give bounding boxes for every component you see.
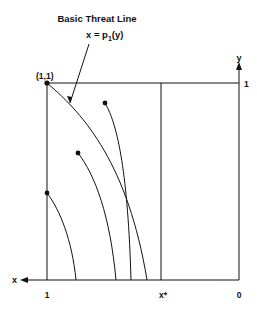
trajectory-curve-lower	[47, 193, 76, 280]
trajectory-curve-upper	[105, 103, 131, 280]
x-tick-star: x*	[159, 290, 168, 300]
basic-threat-line-curve	[47, 83, 147, 280]
threat-line-diagram: Basic Threat Line x = p1(y) (1,1) y 1 x …	[0, 0, 257, 317]
y-tick-one: 1	[244, 79, 249, 89]
x-tick-zero: 0	[237, 290, 242, 300]
corner-label: (1,1)	[36, 71, 54, 81]
trajectory-curve-middle	[78, 153, 116, 280]
trajectory-start-point-lower	[45, 191, 50, 196]
equation-label: x = p1(y)	[86, 29, 123, 42]
x-axis-label: x	[12, 275, 17, 285]
trajectory-start-point-middle	[76, 151, 81, 156]
equation-rhs: (y)	[112, 29, 124, 40]
y-axis-label: y	[236, 53, 241, 63]
corner-point	[44, 80, 49, 85]
equation-pointer-line	[70, 44, 89, 103]
trajectory-start-point-upper	[103, 101, 108, 106]
equation-lhs: x = p	[86, 29, 108, 40]
diagram-title: Basic Threat Line	[57, 13, 136, 24]
x-tick-one: 1	[45, 290, 50, 300]
